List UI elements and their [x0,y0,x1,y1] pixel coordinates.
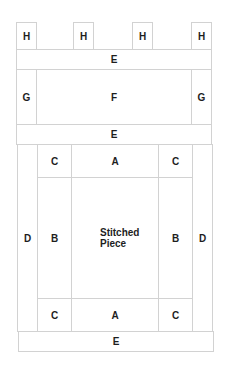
piece-label: H [23,31,30,42]
piece-label: C [51,310,58,321]
piece-label: A [111,156,118,167]
piece-label: D [24,233,31,244]
piece-g-left: G [16,69,37,125]
piece-c-top-left: C [37,144,72,178]
piece-label: H [139,31,146,42]
piece-g-right: G [191,69,212,125]
piece-c-top-right: C [158,144,193,178]
piece-label: H [80,31,87,42]
piece-h-4: H [191,22,212,50]
piece-label: E [113,336,120,347]
piece-c-bottom-right: C [158,298,193,332]
piece-label: C [172,310,179,321]
piece-label: D [199,233,206,244]
piece-label: C [51,156,58,167]
piece-label: E [111,129,118,140]
piece-a-bottom: A [71,298,159,332]
piece-a-top: A [71,144,159,178]
piece-c-bottom-left: C [37,298,72,332]
piece-b-left: B [37,177,72,299]
piece-e-middle: E [16,124,212,145]
piece-f: F [36,69,192,125]
piece-label: F [111,92,117,103]
piece-label: C [172,156,179,167]
piece-b-right: B [158,177,193,299]
piece-h-2: H [73,22,94,50]
piece-label: E [111,54,118,65]
stitched-piece-label: Stitched Piece [100,227,139,249]
piece-label: A [111,310,118,321]
piece-e-bottom: E [18,331,214,352]
piece-h-3: H [132,22,153,50]
piece-label: G [23,92,31,103]
piece-label: B [172,233,179,244]
piece-d-right: D [192,144,213,332]
piece-d-left: D [17,144,38,332]
piece-label: H [198,31,205,42]
piece-label: G [198,92,206,103]
stitched-piece: Stitched Piece [71,177,159,299]
piece-h-1: H [16,22,37,50]
piece-label: B [51,233,58,244]
piece-e-top: E [16,49,212,70]
